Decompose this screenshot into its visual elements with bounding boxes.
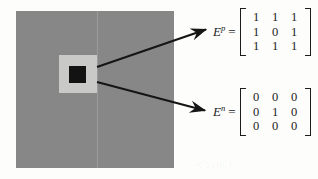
- scan-seam-line: [97, 11, 98, 168]
- matrix-cell: 0: [285, 119, 304, 134]
- matrix-row: 0 1 0: [247, 105, 304, 120]
- matrix-cell: 0: [247, 105, 266, 120]
- matrix-cell: 1: [247, 39, 266, 54]
- en-symbol: E: [213, 104, 221, 119]
- matrix-row: 0 0 0: [247, 90, 304, 105]
- matrix-cell: 0: [285, 105, 304, 120]
- matrix-cell: 1: [266, 105, 285, 120]
- ep-symbol-label: Ep: [213, 23, 225, 40]
- en-equals-sign: =: [228, 104, 235, 120]
- equation-en: En = 0 0 0 0 1 0 0 0 0: [213, 88, 311, 136]
- matrix-cell: 1: [285, 10, 304, 25]
- ep-symbol: E: [213, 24, 221, 39]
- matrix-cell: 1: [266, 39, 285, 54]
- matrix-row: 1 1 1: [247, 10, 304, 25]
- matrix-row: 1 0 1: [247, 25, 304, 40]
- matrix-cell: 0: [266, 119, 285, 134]
- matrix-row: 0 0 0: [247, 119, 304, 134]
- matrix-cell: 0: [266, 25, 285, 40]
- matrix-cell: 0: [247, 119, 266, 134]
- matrix-ep: 1 1 1 1 0 1 1 1 1: [240, 8, 311, 56]
- matrix-cell: 0: [285, 90, 304, 105]
- ep-equals-sign: =: [228, 24, 235, 40]
- black-center-block: [69, 66, 86, 83]
- matrix-cell: 1: [266, 10, 285, 25]
- figure-container: Ep = 1 1 1 1 0 1 1 1 1: [0, 0, 318, 179]
- ep-superscript: p: [221, 23, 225, 33]
- matrix-row: 1 1 1: [247, 39, 304, 54]
- matrix-cell: 0: [247, 90, 266, 105]
- matrix-en: 0 0 0 0 1 0 0 0 0: [240, 88, 311, 136]
- matrix-cell: 1: [247, 10, 266, 25]
- matrix-cell: 0: [266, 90, 285, 105]
- en-superscript: n: [221, 103, 225, 113]
- matrix-cell: 1: [247, 25, 266, 40]
- equation-ep: Ep = 1 1 1 1 0 1 1 1 1: [213, 8, 311, 56]
- en-symbol-label: En: [213, 103, 225, 120]
- matrix-cell: 1: [285, 25, 304, 40]
- matrix-cell: 1: [285, 39, 304, 54]
- page-bleed-through-text: Curve S: [196, 158, 232, 170]
- image-panel: [16, 11, 174, 168]
